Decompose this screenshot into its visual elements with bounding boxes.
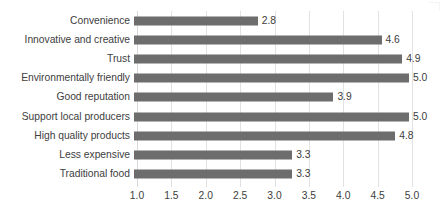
category-label: Environmentally friendly [0, 72, 134, 84]
x-tick-label: 1.0 [130, 189, 144, 203]
category-label: Support local producers [0, 111, 134, 123]
bar-row: Support local producers5.0 [0, 107, 446, 126]
x-tick-label: 3.0 [267, 189, 281, 203]
bar[interactable] [134, 131, 395, 140]
bar-row: Convenience2.8 [0, 11, 446, 30]
category-label: Traditional food [0, 168, 134, 180]
x-tick-label: 2.5 [233, 189, 247, 203]
bar-value-label: 4.9 [402, 53, 420, 65]
bar-row: Innovative and creative4.6 [0, 30, 446, 49]
x-tick-label: 1.5 [164, 189, 178, 203]
bar[interactable] [134, 54, 402, 63]
bar[interactable] [134, 35, 382, 44]
category-label: Convenience [0, 15, 134, 27]
bar-row: Environmentally friendly5.0 [0, 69, 446, 88]
bar-zone: 3.3 [134, 145, 446, 164]
x-tick-label: 2.0 [199, 189, 213, 203]
bar-zone: 3.3 [134, 165, 446, 184]
bar[interactable] [134, 93, 333, 102]
x-tick-label: 3.5 [302, 189, 316, 203]
bar-row: Good reputation3.9 [0, 88, 446, 107]
bar-value-label: 5.0 [409, 111, 427, 123]
category-label: Less expensive [0, 149, 134, 161]
bar[interactable] [134, 74, 409, 83]
bar-value-label: 3.9 [333, 91, 351, 103]
bar-row: High quality products4.8 [0, 126, 446, 145]
bar-value-label: 3.3 [292, 168, 310, 180]
bar-value-label: 5.0 [409, 72, 427, 84]
bar-value-label: 4.8 [395, 130, 413, 142]
bar-value-label: 4.6 [382, 34, 400, 46]
bar-rows: Convenience2.8Innovative and creative4.6… [0, 11, 446, 184]
bar[interactable] [134, 150, 292, 159]
category-label: Innovative and creative [0, 34, 134, 46]
category-label: High quality products [0, 130, 134, 142]
bar-zone: 4.6 [134, 30, 446, 49]
bar-zone: 3.9 [134, 88, 446, 107]
bar-zone: 2.8 [134, 11, 446, 30]
bar-row: Traditional food3.3 [0, 165, 446, 184]
bar-value-label: 3.3 [292, 149, 310, 161]
x-tick-label: 5.0 [405, 189, 419, 203]
plot-area: Convenience2.8Innovative and creative4.6… [0, 0, 446, 219]
x-tick-label: 4.5 [370, 189, 384, 203]
bar-zone: 4.9 [134, 49, 446, 68]
category-label: Trust [0, 53, 134, 65]
bar-zone: 4.8 [134, 126, 446, 145]
x-axis: 1.01.52.02.53.03.54.04.55.0 [137, 189, 412, 205]
bar[interactable] [134, 112, 409, 121]
bar-value-label: 2.8 [258, 15, 276, 27]
bar-row: Trust4.9 [0, 49, 446, 68]
bar-chart: Convenience2.8Innovative and creative4.6… [0, 0, 446, 219]
category-label: Good reputation [0, 91, 134, 103]
x-tick-label: 4.0 [336, 189, 350, 203]
bar[interactable] [134, 170, 292, 179]
bar-row: Less expensive3.3 [0, 145, 446, 164]
bar-zone: 5.0 [134, 69, 446, 88]
bar-zone: 5.0 [134, 107, 446, 126]
bar[interactable] [134, 16, 258, 25]
